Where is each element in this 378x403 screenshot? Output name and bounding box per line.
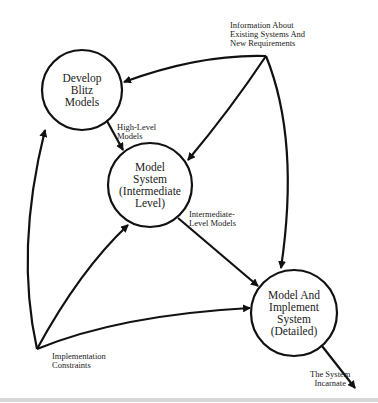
edge-constraints-to-detailed (37, 308, 250, 349)
node-label-model-implement-system: Model And Implement System (Detailed) (268, 289, 320, 337)
diagram-graphics (0, 0, 378, 403)
edge-label-intermediate-level-models: Intermediate- Level Models (189, 210, 236, 228)
edge-constraints-to-intermediate (37, 225, 128, 349)
edge-information-to-detailed (266, 56, 288, 268)
node-label-model-system: Model System (Intermediate Level) (119, 161, 181, 209)
edge-information-to-blitz (124, 56, 266, 82)
source-label-information: Information About Existing Systems And N… (230, 21, 305, 48)
edge-label-high-level-models: High-Level Models (117, 123, 156, 141)
diagram-canvas: Develop Blitz Models Model System (Inter… (0, 0, 378, 403)
source-label-implementation-constraints: Implementation Constraints (52, 352, 106, 370)
page-bottom-rule (0, 398, 378, 402)
edge-information-to-intermediate (188, 56, 266, 160)
edge-intermediate-to-detailed (178, 218, 258, 286)
edge-constraints-to-blitz (28, 130, 45, 349)
edge-label-system-incarnate: The System Incarnate (310, 370, 350, 388)
node-label-develop-blitz-models: Develop Blitz Models (63, 72, 102, 108)
